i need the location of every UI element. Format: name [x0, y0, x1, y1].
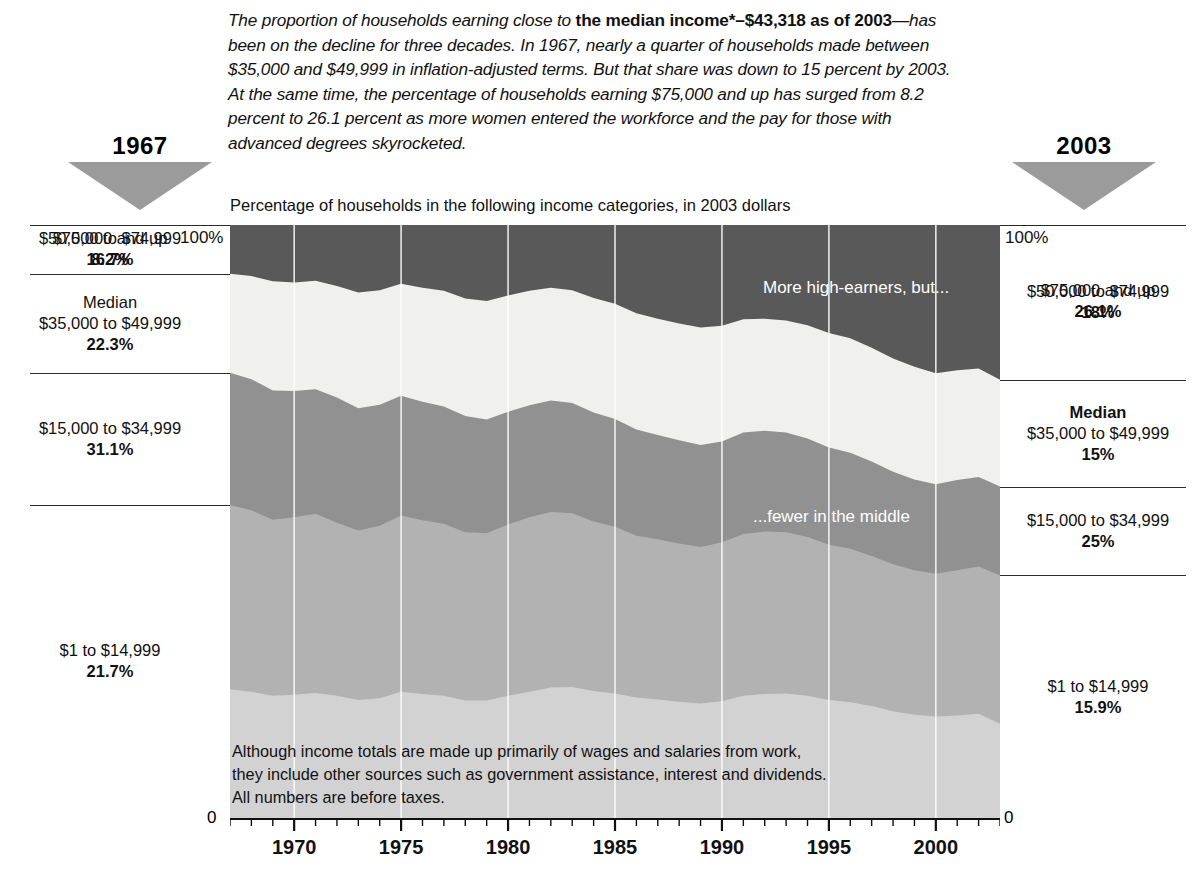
category-label-right: $1 to $14,99915.9% [1000, 676, 1196, 718]
category-percent: 15% [1000, 444, 1196, 465]
category-divider [30, 505, 230, 506]
category-range: $1 to $14,999 [6, 640, 214, 661]
category-divider [1000, 225, 1186, 226]
category-percent: 16.7% [6, 249, 214, 270]
category-label-right: Median$35,000 to $49,99915% [1000, 402, 1196, 465]
category-label-left: $50,000 to $74,99916.7% [6, 228, 214, 270]
category-range: $15,000 to $34,999 [1000, 510, 1196, 531]
category-label-right: $15,000 to $34,99925% [1000, 510, 1196, 552]
x-axis-tick-label: 1980 [486, 836, 531, 859]
axis-label-zero-left: 0 [207, 808, 216, 828]
infographic-root: The proportion of households earning clo… [0, 0, 1198, 886]
chart-subtitle: Percentage of households in the followin… [230, 196, 790, 215]
category-range: $35,000 to $49,999 [6, 313, 214, 334]
category-divider [1000, 487, 1186, 488]
category-percent: 25% [1000, 531, 1196, 552]
category-label-left: Median$35,000 to $49,99922.3% [6, 292, 214, 355]
x-axis-tick-label: 1970 [272, 836, 317, 859]
category-range: $35,000 to $49,999 [1000, 423, 1196, 444]
x-axis-tick-label: 1975 [379, 836, 424, 859]
category-label-right: $50,000 to $74,99918% [1000, 281, 1196, 323]
category-title: Median [1000, 402, 1196, 423]
category-divider [30, 274, 230, 275]
category-percent: 21.7% [6, 661, 214, 682]
category-divider [30, 225, 230, 226]
intro-before-bold: The proportion of households earning clo… [228, 10, 576, 30]
category-percent: 15.9% [1000, 697, 1196, 718]
x-axis-tick-label: 1995 [807, 836, 852, 859]
x-axis-tick-label: 1990 [700, 836, 745, 859]
axis-label-100-right: 100% [1005, 228, 1048, 248]
category-divider [30, 373, 230, 374]
category-range: $15,000 to $34,999 [6, 418, 214, 439]
category-title: Median [6, 292, 214, 313]
category-label-left: $15,000 to $34,99931.1% [6, 418, 214, 460]
x-axis-tick-label: 2000 [914, 836, 959, 859]
intro-paragraph: The proportion of households earning clo… [228, 8, 963, 155]
category-range: $1 to $14,999 [1000, 676, 1196, 697]
down-triangle-icon-right [1012, 162, 1156, 210]
category-range: $50,000 to $74,999 [6, 228, 214, 249]
category-percent: 31.1% [6, 439, 214, 460]
category-range: $50,000 to $74,999 [1000, 281, 1196, 302]
category-percent: 18% [1000, 302, 1196, 323]
year-label-right: 2003 [1012, 132, 1156, 160]
annotation-fewer-middle: ...fewer in the middle [753, 507, 910, 527]
category-label-left: $1 to $14,99921.7% [6, 640, 214, 682]
x-axis [230, 818, 1000, 832]
axis-label-zero-right: 0 [1004, 808, 1013, 828]
x-axis-svg [230, 818, 1000, 832]
category-divider [1000, 380, 1186, 381]
intro-after-bold: —has been on the decline for three decad… [228, 10, 950, 153]
chart-footnote: Although income totals are made up prima… [232, 740, 832, 809]
year-label-left: 1967 [68, 132, 212, 160]
annotation-high-earners: More high-earners, but... [763, 278, 949, 298]
category-divider [1000, 575, 1186, 576]
category-percent: 22.3% [6, 334, 214, 355]
down-triangle-icon-left [68, 162, 212, 210]
x-axis-tick-label: 1985 [593, 836, 638, 859]
intro-bold: the median income*–$43,318 as of 2003 [576, 10, 892, 30]
